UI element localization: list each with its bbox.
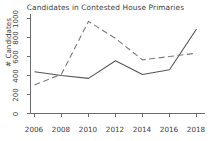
x-tick-marks <box>35 114 197 118</box>
data-line-solid <box>35 29 197 78</box>
y-tick-marks <box>27 19 31 114</box>
plot-area <box>0 0 211 141</box>
axis-lines <box>31 14 206 114</box>
chart-figure: Candidates in Contested House Primaries … <box>0 0 211 141</box>
